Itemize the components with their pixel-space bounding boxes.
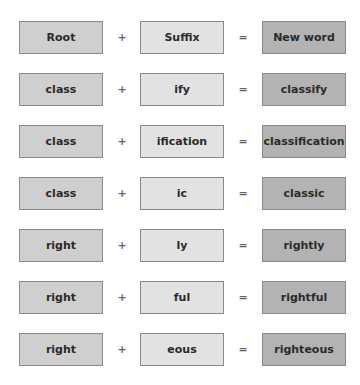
suffix-box: eous: [140, 333, 224, 366]
root-box: right: [19, 281, 103, 314]
new-word-box: rightly: [262, 229, 346, 262]
equals-sign: =: [233, 21, 253, 54]
new-word-box: rightful: [262, 281, 346, 314]
suffix-box: ly: [140, 229, 224, 262]
plus-sign: +: [112, 333, 132, 366]
equals-sign: =: [233, 229, 253, 262]
root-box: right: [19, 333, 103, 366]
plus-sign: +: [112, 73, 132, 106]
word-row: class + ification = classification: [0, 125, 360, 158]
root-box: class: [19, 125, 103, 158]
suffix-box: ful: [140, 281, 224, 314]
equals-sign: =: [233, 73, 253, 106]
root-box: class: [19, 177, 103, 210]
word-row: right + ly = rightly: [0, 229, 360, 262]
header-row: Root + Suffix = New word: [0, 21, 360, 54]
equals-sign: =: [233, 281, 253, 314]
word-row: right + eous = righteous: [0, 333, 360, 366]
word-row: class + ic = classic: [0, 177, 360, 210]
suffix-box: ic: [140, 177, 224, 210]
suffix-box: ification: [140, 125, 224, 158]
root-box: class: [19, 73, 103, 106]
new-word-box: classify: [262, 73, 346, 106]
equals-sign: =: [233, 177, 253, 210]
new-word-box: classic: [262, 177, 346, 210]
plus-sign: +: [112, 125, 132, 158]
plus-sign: +: [112, 229, 132, 262]
plus-sign: +: [112, 281, 132, 314]
suffix-header: Suffix: [140, 21, 224, 54]
plus-sign: +: [112, 177, 132, 210]
new-word-box: righteous: [262, 333, 346, 366]
equals-sign: =: [233, 333, 253, 366]
plus-sign: +: [112, 21, 132, 54]
new-word-box: classification: [262, 125, 346, 158]
root-box: right: [19, 229, 103, 262]
word-row: right + ful = rightful: [0, 281, 360, 314]
suffix-box: ify: [140, 73, 224, 106]
root-header: Root: [19, 21, 103, 54]
word-row: class + ify = classify: [0, 73, 360, 106]
equals-sign: =: [233, 125, 253, 158]
new-word-header: New word: [262, 21, 346, 54]
